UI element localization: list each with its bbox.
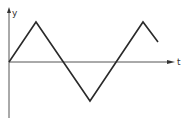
triangle-wave-diagram: y t xyxy=(0,0,187,123)
x-axis-arrow-icon xyxy=(167,60,175,64)
y-axis-arrow-icon xyxy=(7,7,11,13)
y-axis-label: y xyxy=(12,8,18,18)
x-axis-label: t xyxy=(177,57,181,67)
